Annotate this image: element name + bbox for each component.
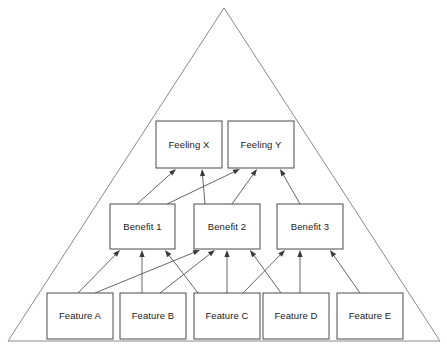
link-arrowhead-icon xyxy=(233,169,240,174)
link-arrowhead-icon xyxy=(224,250,229,257)
link-line xyxy=(232,175,253,204)
link-line xyxy=(243,255,280,293)
node-label-feature_a: Feature A xyxy=(59,310,102,321)
level-feelings: Feeling XFeeling Y xyxy=(156,121,294,168)
level-benefits: Benefit 1Benefit 2Benefit 3 xyxy=(110,204,343,249)
link-feature_d-to-benefit_2 xyxy=(250,250,281,293)
node-feature_b[interactable]: Feature B xyxy=(120,293,186,339)
link-arrowhead-icon xyxy=(208,250,215,256)
node-feeling_y[interactable]: Feeling Y xyxy=(228,121,294,168)
link-arrowhead-icon xyxy=(251,169,257,176)
link-feature_c-to-benefit_3 xyxy=(243,250,285,293)
node-label-benefit_1: Benefit 1 xyxy=(123,221,161,232)
node-label-feature_d: Feature D xyxy=(274,310,317,321)
node-label-feature_e: Feature E xyxy=(349,310,392,321)
link-feature_b-to-benefit_2 xyxy=(160,250,215,293)
diagram-root: Feeling XFeeling YBenefit 1Benefit 2Bene… xyxy=(0,0,447,348)
node-benefit_3[interactable]: Benefit 3 xyxy=(277,204,343,249)
node-feature_e[interactable]: Feature E xyxy=(337,293,403,339)
node-benefit_2[interactable]: Benefit 2 xyxy=(194,204,260,249)
link-feature_a-to-benefit_1 xyxy=(78,250,120,293)
link-line xyxy=(283,175,300,204)
node-label-feeling_x: Feeling X xyxy=(168,139,210,150)
link-benefit_1-to-feeling_x xyxy=(137,169,176,204)
nodes-layer: Feeling XFeeling YBenefit 1Benefit 2Bene… xyxy=(47,121,403,339)
link-benefit_3-to-feeling_y xyxy=(280,169,300,204)
link-feature_a-to-benefit_2 xyxy=(95,250,200,293)
link-feature_b-to-benefit_1 xyxy=(139,250,144,293)
link-line xyxy=(167,172,234,204)
link-arrowhead-icon xyxy=(297,250,302,257)
link-feature_c-to-benefit_2 xyxy=(224,250,229,293)
node-label-feature_b: Feature B xyxy=(132,310,175,321)
node-label-benefit_3: Benefit 3 xyxy=(291,221,329,232)
link-feature_d-to-benefit_3 xyxy=(297,250,302,293)
level-features: Feature AFeature BFeature CFeature DFeat… xyxy=(47,293,403,339)
link-arrowhead-icon xyxy=(280,169,286,176)
link-line xyxy=(137,174,171,204)
node-label-feeling_y: Feeling Y xyxy=(241,139,282,150)
node-feature_d[interactable]: Feature D xyxy=(263,293,329,339)
link-arrowhead-icon xyxy=(330,250,336,257)
link-arrowhead-icon xyxy=(193,250,200,255)
link-line xyxy=(160,254,209,293)
link-arrowhead-icon xyxy=(139,250,144,257)
link-feature_c-to-benefit_1 xyxy=(165,250,198,293)
node-label-benefit_2: Benefit 2 xyxy=(208,221,246,232)
diagram-canvas: Feeling XFeeling YBenefit 1Benefit 2Bene… xyxy=(0,0,447,348)
node-benefit_1[interactable]: Benefit 1 xyxy=(110,204,175,249)
node-label-feature_c: Feature C xyxy=(205,310,248,321)
link-feature_e-to-benefit_3 xyxy=(330,250,360,293)
node-feature_a[interactable]: Feature A xyxy=(47,293,113,339)
link-line xyxy=(95,253,194,293)
link-line xyxy=(254,256,281,293)
node-feeling_x[interactable]: Feeling X xyxy=(156,121,222,168)
pyramid-outline xyxy=(8,8,440,341)
link-arrowhead-icon xyxy=(200,169,205,176)
link-arrowhead-icon xyxy=(250,250,256,257)
link-arrowhead-icon xyxy=(165,250,171,257)
link-line xyxy=(203,176,205,204)
node-feature_c[interactable]: Feature C xyxy=(194,293,260,339)
link-line xyxy=(334,256,360,293)
link-benefit_2-to-feeling_y xyxy=(232,169,257,204)
